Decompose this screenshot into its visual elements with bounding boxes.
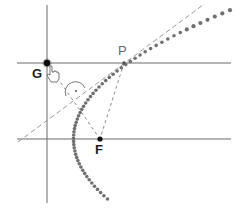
point-f[interactable] [97, 136, 102, 141]
label-g: G [32, 66, 42, 81]
parabola-curve [72, 8, 232, 201]
point-p[interactable] [122, 61, 126, 65]
hand-pointer-cursor-icon [47, 66, 59, 82]
diagram-canvas: G P F [0, 0, 241, 220]
label-f: F [95, 142, 103, 157]
label-p: P [118, 43, 127, 58]
tangent-line [18, 5, 203, 142]
right-angle-dot [75, 90, 77, 92]
